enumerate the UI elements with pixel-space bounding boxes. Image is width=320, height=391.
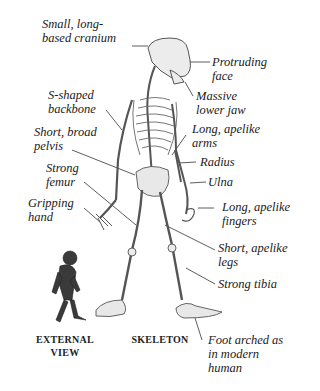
- label-hand: Gripping hand: [28, 196, 74, 224]
- external-view-figure: [52, 251, 86, 322]
- label-radius: Radius: [200, 155, 235, 169]
- label-tibia: Strong tibia: [218, 277, 277, 291]
- label-jaw: Massive lower jaw: [196, 89, 246, 117]
- caption-external-view: EXTERNAL VIEW: [30, 333, 100, 359]
- label-pelvis: Short, broad pelvis: [34, 125, 97, 153]
- label-femur: Strong femur: [46, 161, 79, 189]
- label-arms: Long, apelike arms: [192, 122, 260, 150]
- caption-skeleton: SKELETON: [125, 333, 195, 346]
- label-foot: Foot arched as in modern human: [208, 333, 283, 375]
- label-fingers: Long, apelike fingers: [222, 200, 290, 228]
- label-ulna: Ulna: [208, 175, 233, 189]
- label-face: Protruding face: [212, 55, 267, 83]
- label-backbone: S-shaped backbone: [48, 88, 96, 116]
- label-legs: Short, apelike legs: [218, 241, 287, 269]
- label-cranium: Small, long- based cranium: [42, 17, 116, 45]
